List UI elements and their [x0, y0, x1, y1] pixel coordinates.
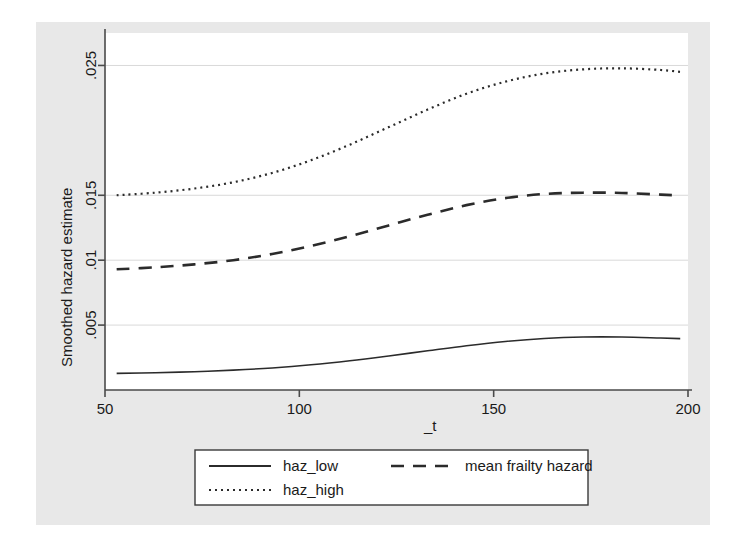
- figure-panel: Smoothed hazard estimate _t .005.01.015.…: [36, 22, 710, 525]
- y-tick-label-1: .01: [82, 250, 99, 271]
- x-tick-label-2: 150: [481, 400, 506, 417]
- x-tick-label-3: 200: [675, 400, 700, 417]
- legend-label-haz_low[interactable]: haz_low: [283, 457, 338, 474]
- chart-canvas: .005.01.015.025 50100150200 haz_lowmean …: [36, 22, 710, 525]
- y-ticks-group: .005.01.015.025: [82, 51, 105, 340]
- legend-label-haz_high[interactable]: haz_high: [283, 481, 344, 498]
- y-tick-label-2: .015: [82, 181, 99, 210]
- legend[interactable]: haz_lowmean frailty hazardhaz_high: [195, 450, 593, 505]
- y-tick-label-0: .005: [82, 310, 99, 339]
- x-ticks-group: 50100150200: [97, 390, 701, 417]
- x-tick-label-0: 50: [97, 400, 114, 417]
- y-tick-label-3: .025: [82, 51, 99, 80]
- x-tick-label-1: 100: [287, 400, 312, 417]
- legend-label-mean-frailty-hazard[interactable]: mean frailty hazard: [465, 457, 593, 474]
